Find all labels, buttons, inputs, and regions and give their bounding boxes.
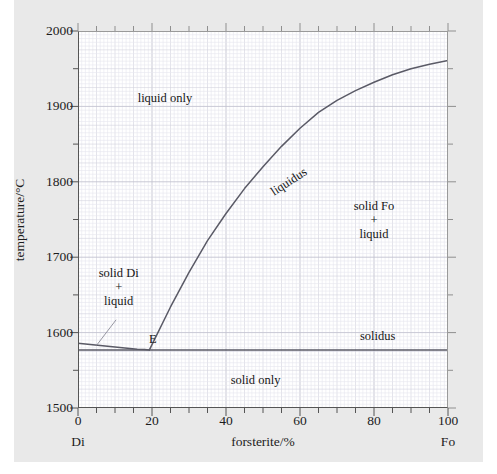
phase-diagram-figure: 150016001700180019002000 020406080100 te… [0,0,497,474]
x-tick-label: 0 [75,413,82,429]
x-tick-label: 80 [367,413,381,429]
y-tick-label: 1800 [46,173,73,189]
region-solid-di-liquid: solid Di+liquid [99,266,139,308]
y-axis-title: temperature/°C [12,178,28,261]
solidus-label: solidus [360,329,395,343]
x-tick-label: 40 [219,413,233,429]
y-tick-label: 2000 [46,23,73,39]
x-tick-label: 20 [145,413,159,429]
region-liquid-only: liquid only [138,91,193,105]
x-tick-label: 100 [438,413,458,429]
axis-end-label-fo: Fo [441,434,455,450]
x-tick-label: 60 [293,413,307,429]
eutectic-point: E [149,331,157,346]
axis-end-label-di: Di [71,434,85,450]
y-tick-label: 1500 [46,400,73,416]
x-axis-title: forsterite/% [231,434,295,450]
region-solid-only: solid only [231,373,281,387]
y-tick-label: 1900 [46,98,73,114]
plot-area: 150016001700180019002000 020406080100 te… [78,31,448,408]
region-solid-fo-liquid: solid Fo+liquid [354,199,395,241]
y-tick-label: 1600 [46,324,73,340]
y-tick-label: 1700 [46,249,73,265]
